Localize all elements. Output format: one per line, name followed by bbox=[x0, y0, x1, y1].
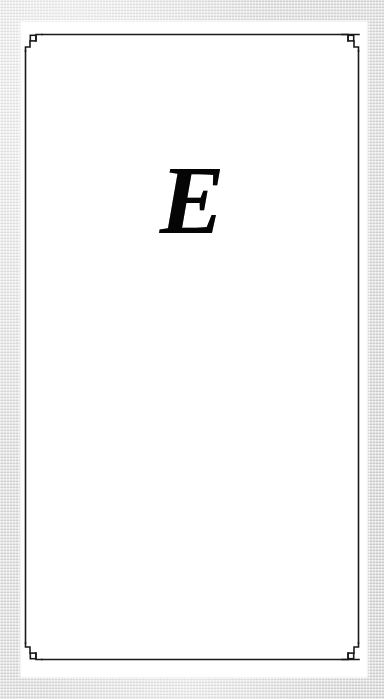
scanned-page: E bbox=[0, 0, 384, 699]
paper-sheet bbox=[20, 21, 368, 678]
chapter-drop-cap: E bbox=[0, 152, 384, 249]
